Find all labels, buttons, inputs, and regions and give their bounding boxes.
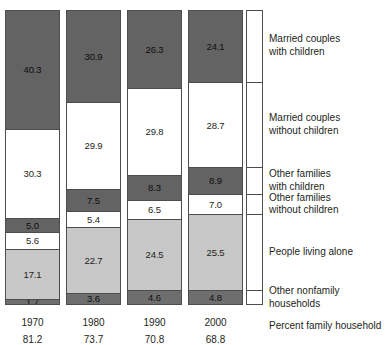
bar-column: 40.330.35.05.617.11.7 1970 81.2 — [5, 10, 60, 305]
bar-segment-of-kids[interactable]: 8.3 — [128, 175, 181, 199]
legend-entry-line2: with children — [269, 46, 391, 59]
bar-segment-value: 29.9 — [84, 141, 102, 151]
legend-entry-mc-kids: Married coupleswith children — [269, 33, 391, 58]
bar-segment-nonfamily[interactable]: 1.7 — [6, 299, 59, 304]
legend-entry-line1: People living alone — [269, 246, 391, 259]
bar-segment-value: 5.4 — [87, 215, 100, 225]
year-label: 2000 — [188, 318, 243, 328]
bar-segment-mc-nokids[interactable]: 29.8 — [128, 88, 181, 175]
bar-segment-mc-nokids[interactable]: 29.9 — [67, 102, 120, 190]
bar-column: 30.929.97.55.422.73.6 1980 73.7 — [66, 10, 121, 305]
bar-segment-value: 26.3 — [145, 45, 163, 55]
bar-segment-mc-kids[interactable]: 40.3 — [6, 11, 59, 129]
legend-entry-mc-nokids: Married coupleswithout children — [269, 112, 391, 137]
bar-segment-value: 40.3 — [23, 65, 41, 75]
year-label: 1980 — [66, 318, 121, 328]
legend-bracket-cell-of-nokids — [247, 194, 262, 215]
bar-segment-value: 8.3 — [148, 183, 161, 193]
bar-segment-of-kids[interactable]: 7.5 — [67, 189, 120, 211]
bar-segment-mc-nokids[interactable]: 28.7 — [189, 82, 242, 167]
legend-entry-line1: Married couples — [269, 33, 391, 46]
bar-segment-value: 17.1 — [23, 270, 41, 280]
legend-entry-alone: People living alone — [269, 246, 391, 259]
percent-family-household-value: 68.8 — [188, 335, 243, 345]
bar-segment-value: 4.6 — [148, 293, 161, 303]
bar-segment-nonfamily[interactable]: 4.6 — [128, 290, 181, 303]
legend-bracket-cell-alone — [247, 214, 262, 289]
bar-segment-alone[interactable]: 17.1 — [6, 249, 59, 299]
bar-segment-value: 7.0 — [209, 200, 222, 210]
legend-bracket-cell-nonfamily — [247, 290, 262, 304]
bar-segment-value: 6.5 — [148, 205, 161, 215]
bar-segment-value: 8.9 — [209, 176, 222, 186]
legend-entry-line2: without children — [269, 204, 391, 217]
bar-segment-alone[interactable]: 24.5 — [128, 219, 181, 291]
bar-segment-nonfamily[interactable]: 3.6 — [67, 293, 120, 304]
legend-entry-of-nokids: Other familieswithout children — [269, 192, 391, 217]
bar-segment-of-kids[interactable]: 5.0 — [6, 218, 59, 233]
bars-area: 40.330.35.05.617.11.7 1970 81.2 30.929.9… — [0, 0, 250, 336]
bar-segment-value: 30.3 — [23, 169, 41, 179]
bar-segment-value: 4.8 — [209, 293, 222, 303]
legend-entry-line2: without children — [269, 125, 391, 138]
bar-segment-of-nokids[interactable]: 7.0 — [189, 194, 242, 215]
legend-bracket-cell-mc-kids — [247, 11, 262, 82]
year-label: 1990 — [127, 318, 182, 328]
bar-segment-of-kids[interactable]: 8.9 — [189, 167, 242, 193]
footnote-label: Percent family household — [269, 320, 391, 332]
legend-entry-line1: Other nonfamily — [269, 285, 391, 298]
bar-segment-mc-kids[interactable]: 26.3 — [128, 11, 181, 88]
year-label: 1970 — [5, 318, 60, 328]
bar-segment-value: 22.7 — [84, 256, 102, 266]
legend-bracket — [246, 10, 263, 305]
percent-family-household-value: 81.2 — [5, 335, 60, 345]
bar-column: 24.128.78.97.025.54.8 2000 68.8 — [188, 10, 243, 305]
bar-segment-value: 30.9 — [84, 52, 102, 62]
legend-entry-line2: households — [269, 298, 391, 311]
bar-segment-value: 29.8 — [145, 127, 163, 137]
bar-segment-value: 1.7 — [26, 299, 39, 304]
legend-bracket-cell-of-kids — [247, 167, 262, 193]
legend-entry-nonfamily: Other nonfamilyhouseholds — [269, 285, 391, 310]
percent-family-household-value: 73.7 — [66, 335, 121, 345]
bar-segment-value: 5.0 — [26, 221, 39, 231]
bar-stack[interactable]: 24.128.78.97.025.54.8 — [188, 10, 243, 305]
bar-segment-alone[interactable]: 25.5 — [189, 214, 242, 289]
bar-segment-value: 28.7 — [206, 121, 224, 131]
legend-bracket-cell-mc-nokids — [247, 82, 262, 167]
bar-segment-value: 24.1 — [206, 42, 224, 52]
bar-segment-value: 5.6 — [26, 236, 39, 246]
bar-segment-nonfamily[interactable]: 4.8 — [189, 290, 242, 304]
legend-entry-line1: Other families — [269, 168, 391, 181]
legend-entry-line1: Married couples — [269, 112, 391, 125]
bar-segment-of-nokids[interactable]: 6.5 — [128, 200, 181, 219]
bar-segment-value: 25.5 — [206, 248, 224, 258]
bar-stack[interactable]: 26.329.88.36.524.54.6 — [127, 10, 182, 305]
bar-segment-mc-kids[interactable]: 24.1 — [189, 11, 242, 82]
legend-entry-line1: Other families — [269, 192, 391, 205]
bar-segment-alone[interactable]: 22.7 — [67, 227, 120, 294]
legend: Married coupleswith childrenMarried coup… — [269, 0, 391, 336]
percent-family-household-value: 70.8 — [127, 335, 182, 345]
legend-entry-of-kids: Other familieswith children — [269, 168, 391, 193]
bar-stack[interactable]: 40.330.35.05.617.11.7 — [5, 10, 60, 305]
bar-segment-of-nokids[interactable]: 5.6 — [6, 232, 59, 248]
bar-segment-mc-kids[interactable]: 30.9 — [67, 11, 120, 102]
bar-segment-mc-nokids[interactable]: 30.3 — [6, 129, 59, 218]
bar-segment-of-nokids[interactable]: 5.4 — [67, 211, 120, 227]
bar-stack[interactable]: 30.929.97.55.422.73.6 — [66, 10, 121, 305]
bar-segment-value: 24.5 — [145, 250, 163, 260]
bar-column: 26.329.88.36.524.54.6 1990 70.8 — [127, 10, 182, 305]
bar-segment-value: 3.6 — [87, 294, 100, 304]
bar-segment-value: 7.5 — [87, 196, 100, 206]
